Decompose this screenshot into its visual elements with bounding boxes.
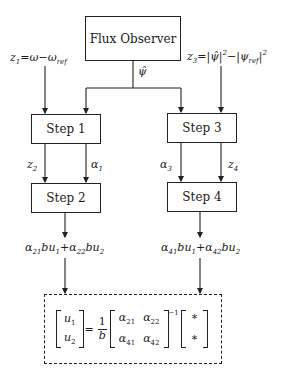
alpha1-label: α1: [91, 159, 103, 173]
psi-hat-label: ψ̂: [138, 66, 147, 77]
z1-input-label: z1=ω−ωref: [10, 52, 67, 66]
rhs-vector: * *: [181, 310, 209, 348]
control-law-equation: u1 u2 = 1 b α21 α22 α41 α42 −1 * *: [56, 309, 208, 349]
one-over-b: 1 b: [98, 316, 107, 341]
step2-block: Step 2: [31, 183, 101, 213]
step3-block: Step 3: [167, 113, 237, 143]
alpha3-label: α3: [160, 159, 172, 173]
alpha-matrix: α21 α22 α41 α42: [110, 310, 169, 348]
z3-input-label: z3=|ψ̂|2−|ψref|2: [187, 50, 267, 65]
u-vector: u1 u2: [56, 310, 84, 348]
z2-label: z2: [27, 159, 37, 173]
step4-block: Step 4: [167, 182, 237, 212]
step1-block: Step 1: [31, 114, 101, 144]
inverse-exponent: −1: [169, 309, 179, 317]
flux-observer-block: Flux Observer: [85, 16, 181, 61]
z4-label: z4: [228, 159, 238, 173]
right-output-expression: α41bu1+α42bu2: [161, 242, 240, 256]
left-output-expression: α21bu1+α22bu2: [25, 242, 104, 256]
flux-observer-label: Flux Observer: [90, 32, 177, 46]
